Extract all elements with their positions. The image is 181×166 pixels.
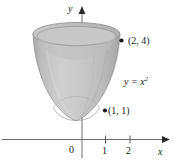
point-label-2-4: (2, 4) bbox=[128, 36, 150, 46]
point-label-1-1: (1, 1) bbox=[108, 106, 130, 116]
y-axis-label: y bbox=[68, 4, 72, 14]
point-marker-1-1 bbox=[103, 108, 107, 112]
origin-label: 0 bbox=[69, 145, 74, 155]
point-marker-2-4 bbox=[119, 38, 123, 42]
x-tick-label-1: 1 bbox=[102, 146, 107, 156]
paraboloid-solid bbox=[33, 23, 120, 122]
curve-equation-text: y = x bbox=[124, 76, 145, 87]
solid-of-revolution-figure: (2, 4) y = x2 (1, 1) 0 1 2 x y bbox=[0, 0, 181, 166]
x-axis bbox=[2, 136, 170, 144]
curve-equation-label: y = x2 bbox=[124, 76, 148, 87]
figure-canvas bbox=[0, 0, 181, 166]
curve-exponent: 2 bbox=[145, 75, 148, 82]
x-axis-label: x bbox=[158, 147, 162, 157]
x-tick-label-2: 2 bbox=[126, 146, 131, 156]
